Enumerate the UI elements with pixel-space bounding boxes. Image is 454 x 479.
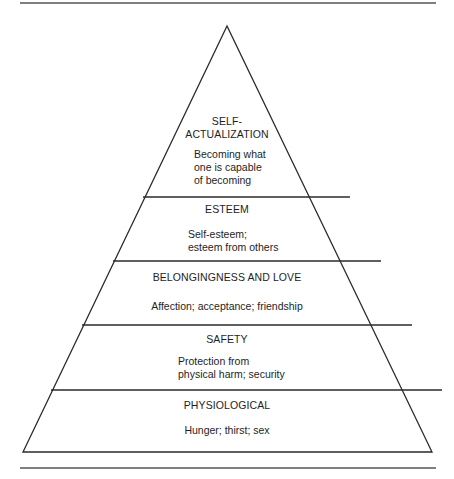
level-description: Self-esteem; esteem from others (188, 228, 278, 254)
level-description: Becoming what one is capable of becoming (194, 148, 266, 187)
desc-line: esteem from others (188, 241, 278, 254)
level-description: Hunger; thirst; sex (147, 424, 307, 437)
level-title: ESTEEM (177, 203, 277, 216)
desc-line: Self-esteem; (188, 228, 278, 241)
level-description: Protection from physical harm; security (178, 355, 285, 381)
level-title: BELONGINGNESS AND LOVE (127, 271, 327, 284)
title-line: SELF- (177, 115, 277, 128)
desc-line: of becoming (194, 174, 266, 187)
desc-line: Protection from (178, 355, 285, 368)
level-description: Affection; acceptance; friendship (127, 300, 327, 313)
level-title: SELF- ACTUALIZATION (177, 115, 277, 141)
desc-line: physical harm; security (178, 368, 285, 381)
desc-line: one is capable (194, 161, 266, 174)
title-line: ACTUALIZATION (177, 128, 277, 141)
desc-line: Becoming what (194, 148, 266, 161)
level-title: SAFETY (177, 333, 277, 346)
level-title: PHYSIOLOGICAL (147, 399, 307, 412)
